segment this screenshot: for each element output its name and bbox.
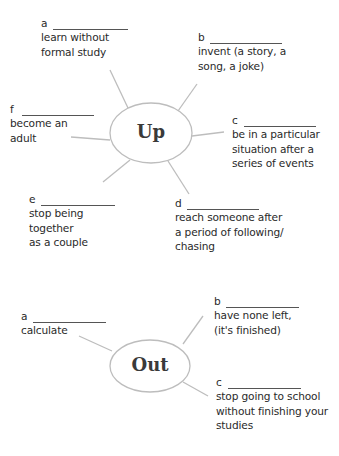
item-definition: stop being together as a couple <box>29 206 115 249</box>
out-center-label: Out <box>118 354 182 375</box>
out-item-a: a calculate <box>21 309 106 338</box>
item-definition: reach someone after a period of followin… <box>175 210 283 253</box>
up-center-label: Up <box>120 121 182 142</box>
up-item-c: c be in a particular situation after a s… <box>232 113 320 171</box>
answer-blank[interactable] <box>187 199 259 210</box>
out-item-c: c stop going to school without finishing… <box>216 375 328 433</box>
up-item-e: e stop being together as a couple <box>29 192 115 250</box>
answer-blank[interactable] <box>228 378 301 389</box>
answer-blank[interactable] <box>210 33 282 44</box>
answer-blank[interactable] <box>53 19 128 30</box>
answer-blank[interactable] <box>244 116 316 127</box>
item-letter: d <box>175 196 185 210</box>
answer-blank[interactable] <box>226 297 299 308</box>
item-definition: be in a particular situation after a ser… <box>232 127 320 170</box>
item-definition: learn without formal study <box>41 30 128 59</box>
item-letter: a <box>21 309 31 323</box>
answer-blank[interactable] <box>22 105 94 116</box>
answer-blank[interactable] <box>41 195 115 206</box>
answer-blank[interactable] <box>33 312 106 323</box>
item-letter: e <box>29 192 39 206</box>
up-item-b: b invent (a story, a song, a joke) <box>198 30 286 73</box>
item-letter: b <box>214 294 224 308</box>
item-letter: c <box>232 113 242 127</box>
item-letter: c <box>216 375 226 389</box>
item-letter: b <box>198 30 208 44</box>
item-definition: stop going to school without finishing y… <box>216 389 328 432</box>
up-item-f: f become an adult <box>10 102 94 145</box>
out-item-b: b have none left, (it's finished) <box>214 294 299 337</box>
item-definition: become an adult <box>10 116 94 145</box>
item-letter: a <box>41 16 51 30</box>
item-definition: calculate <box>21 323 106 337</box>
item-letter: f <box>10 102 20 116</box>
up-item-a: a learn without formal study <box>41 16 128 59</box>
item-definition: invent (a story, a song, a joke) <box>198 44 286 73</box>
up-item-d: d reach someone after a period of follow… <box>175 196 283 254</box>
item-definition: have none left, (it's finished) <box>214 308 299 337</box>
